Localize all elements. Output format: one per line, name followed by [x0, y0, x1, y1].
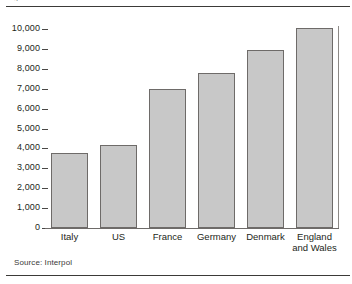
x-tick-label: Italy: [45, 231, 94, 242]
bar: [198, 73, 235, 228]
x-tick-label: England and Wales: [290, 231, 339, 253]
source-note: Source: Interpol: [14, 258, 72, 267]
y-tick-label: 6,000: [0, 104, 40, 113]
y-tick-label: 1,000: [0, 203, 40, 212]
y-tick-label: 4,000: [0, 143, 40, 152]
y-tick-label: 5,000: [0, 124, 40, 133]
y-tick-label: 7,000: [0, 84, 40, 93]
bar: [296, 28, 333, 228]
bar-chart: 01,0002,0003,0004,0005,0006,0007,0008,00…: [0, 12, 352, 257]
x-tick-label: US: [94, 231, 143, 242]
bar: [149, 89, 186, 228]
x-axis-labels: ItalyUSFranceGermanyDenmarkEngland and W…: [45, 231, 339, 261]
cropped-text-sliver: g: [14, 0, 18, 1]
y-tick-label: 9,000: [0, 44, 40, 53]
y-tick-label: 3,000: [0, 163, 40, 172]
y-tick-label: 8,000: [0, 64, 40, 73]
bar: [51, 153, 88, 228]
figure-page: g 01,0002,0003,0004,0005,0006,0007,0008,…: [0, 0, 352, 284]
bottom-horizontal-rule: [6, 275, 350, 276]
y-tick-label: 10,000: [0, 24, 40, 33]
x-tick-label: Germany: [192, 231, 241, 242]
bar: [100, 145, 137, 228]
y-axis-labels: 01,0002,0003,0004,0005,0006,0007,0008,00…: [0, 12, 40, 257]
x-tick-label: Denmark: [241, 231, 290, 242]
bar: [247, 50, 284, 228]
y-tick-label: 2,000: [0, 183, 40, 192]
plot-area: [45, 12, 339, 229]
y-tick-label: 0: [0, 223, 40, 232]
x-tick-label: France: [143, 231, 192, 242]
top-horizontal-rule: [6, 6, 350, 7]
